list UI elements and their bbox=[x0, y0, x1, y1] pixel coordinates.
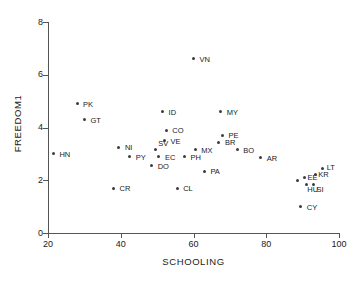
data-point bbox=[76, 102, 79, 105]
x-tick-label: 100 bbox=[319, 240, 358, 249]
data-point bbox=[176, 187, 179, 190]
data-point-label: CY bbox=[307, 204, 317, 212]
y-axis-line bbox=[48, 22, 49, 233]
x-tick-mark bbox=[339, 233, 340, 238]
x-tick-mark bbox=[121, 233, 122, 238]
data-point-label: PK bbox=[83, 101, 93, 109]
data-point bbox=[321, 167, 324, 170]
data-point bbox=[217, 141, 220, 144]
data-point bbox=[157, 155, 160, 158]
data-point bbox=[112, 187, 115, 190]
data-point-label: KR bbox=[318, 171, 328, 179]
data-point-label: VE bbox=[170, 138, 180, 146]
data-point-label: BO bbox=[243, 147, 254, 155]
data-point bbox=[259, 156, 262, 159]
data-point-label: CO bbox=[172, 127, 183, 135]
data-point bbox=[150, 164, 153, 167]
x-tick-mark bbox=[48, 233, 49, 238]
data-point bbox=[236, 148, 239, 151]
data-point bbox=[203, 170, 206, 173]
x-axis-title: SCHOOLING bbox=[48, 256, 339, 267]
y-tick-mark bbox=[43, 180, 48, 181]
y-tick-mark bbox=[43, 128, 48, 129]
data-point bbox=[117, 146, 120, 149]
y-axis-title: FREEDOM1 bbox=[12, 74, 23, 174]
data-point bbox=[183, 155, 186, 158]
data-point-label: CL bbox=[183, 185, 193, 193]
y-tick-mark bbox=[43, 22, 48, 23]
x-tick-label: 60 bbox=[174, 240, 214, 249]
x-tick-label: 80 bbox=[246, 240, 286, 249]
data-point bbox=[312, 183, 315, 186]
data-point bbox=[165, 129, 168, 132]
data-point bbox=[194, 148, 197, 151]
data-point-label: VN bbox=[200, 56, 210, 64]
data-point-label: ID bbox=[169, 109, 177, 117]
data-point bbox=[154, 148, 157, 151]
data-point-label: HN bbox=[59, 151, 70, 159]
x-tick-mark bbox=[194, 233, 195, 238]
data-point-label: SI bbox=[317, 186, 324, 194]
data-point-label: DO bbox=[158, 163, 169, 171]
data-point-label: MX bbox=[201, 147, 212, 155]
data-point bbox=[192, 57, 195, 60]
y-tick-mark bbox=[43, 75, 48, 76]
data-point-label: BR bbox=[225, 139, 235, 147]
data-point-label: EC bbox=[165, 154, 175, 162]
data-point-label: PH bbox=[190, 154, 200, 162]
data-point bbox=[52, 152, 55, 155]
data-point-label: AR bbox=[267, 155, 277, 163]
y-tick-label: 8 bbox=[13, 18, 43, 27]
data-point bbox=[221, 134, 224, 137]
scatter-plot: 02468 20406080100 FREEDOM1 SCHOOLING HNP… bbox=[0, 0, 358, 283]
data-point-label: LT bbox=[327, 164, 335, 172]
data-point-label: PA bbox=[210, 168, 219, 176]
data-point bbox=[161, 110, 164, 113]
data-point-label: MY bbox=[227, 109, 238, 117]
x-tick-mark bbox=[266, 233, 267, 238]
x-tick-label: 40 bbox=[101, 240, 141, 249]
data-point bbox=[299, 205, 302, 208]
data-point bbox=[219, 110, 222, 113]
data-point-label: NI bbox=[125, 144, 133, 152]
y-tick-label: 2 bbox=[13, 176, 43, 185]
data-point bbox=[303, 176, 306, 179]
y-tick-label: 0 bbox=[13, 229, 43, 238]
data-point bbox=[128, 155, 131, 158]
data-point-label: CR bbox=[119, 185, 130, 193]
data-point-label: PY bbox=[136, 154, 146, 162]
x-tick-label: 20 bbox=[28, 240, 68, 249]
data-point-label: GT bbox=[90, 117, 100, 125]
data-point bbox=[296, 179, 299, 182]
data-point bbox=[83, 118, 86, 121]
